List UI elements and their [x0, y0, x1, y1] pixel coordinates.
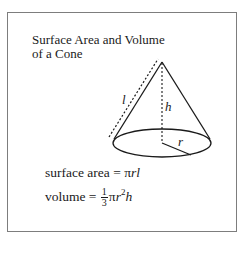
height-label: h [165, 99, 172, 115]
volume-formula: volume = 13πr2h [45, 187, 132, 208]
one-third-fraction: 13 [101, 187, 108, 208]
cone-diagram [0, 0, 249, 253]
pi-symbol: π [109, 189, 116, 204]
slant-height-dashed-line [109, 59, 158, 137]
surface-area-formula: surface area = πrl [45, 165, 140, 181]
pi-symbol: π [124, 165, 131, 180]
radius-label: r [178, 134, 183, 150]
slant-label: l [122, 92, 126, 108]
radius-line [162, 143, 191, 155]
